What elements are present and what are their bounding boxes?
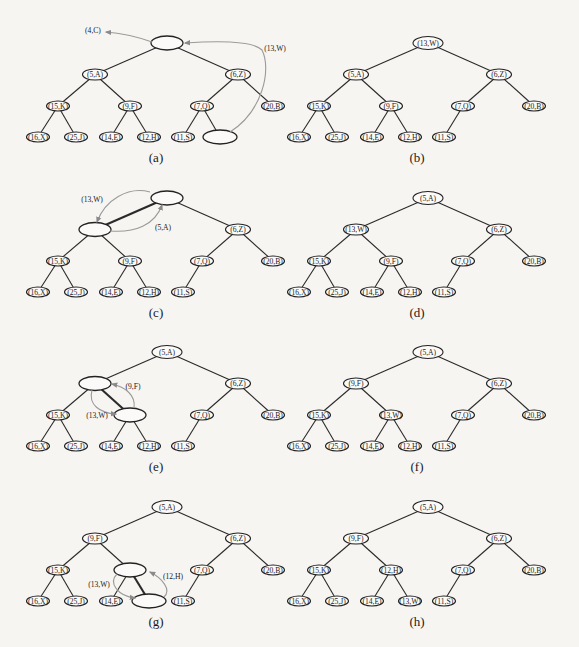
panel-caption: (h)	[409, 614, 424, 629]
node-label: (12,H)	[139, 442, 160, 451]
moving-entry-label: (12,H)	[163, 572, 184, 581]
heap-node: (13,W)	[399, 596, 422, 606]
node-label: (15,K)	[309, 566, 330, 575]
node-label: (9,F)	[349, 379, 364, 388]
node-label: (5,A)	[159, 348, 176, 357]
node-label: (11,S)	[435, 442, 454, 451]
node-label: (15,K)	[48, 566, 69, 575]
heap-node: (7,Q)	[191, 101, 214, 111]
heap-node: (6,Z)	[487, 69, 512, 80]
heap-node: (20,B)	[523, 256, 546, 266]
node-label: (6,Z)	[491, 534, 507, 543]
heap-node: (25,J)	[326, 596, 349, 606]
heap-node: (5,A)	[152, 346, 182, 359]
heap-node: (11,S)	[433, 596, 456, 606]
node-label: (12,H)	[400, 442, 421, 451]
node-label: (11,S)	[174, 288, 193, 297]
heap-node: (11,S)	[433, 441, 456, 451]
node-label: (12,H)	[139, 133, 160, 142]
heap-node: (6,Z)	[226, 69, 251, 80]
node-label: (25,J)	[67, 288, 85, 297]
heap-node: (25,J)	[326, 132, 349, 142]
node-label: (5,A)	[159, 503, 176, 512]
node-label: (14,E)	[362, 597, 382, 606]
node-label: (9,F)	[384, 102, 399, 111]
node-label: (14,E)	[101, 288, 121, 297]
panel-b: (13,W)(5,A)(6,Z)(15,K)(9,F)(7,Q)(20,B)(1…	[288, 37, 546, 165]
heap-node: (9,F)	[380, 101, 403, 111]
node-label: (25,J)	[328, 597, 346, 606]
heap-node: (16,X)	[27, 132, 50, 142]
empty-heap-node	[114, 408, 146, 422]
heap-node: (15,K)	[308, 410, 331, 420]
node-label: (25,J)	[328, 288, 346, 297]
node-label: (15,K)	[309, 257, 330, 266]
heap-node: (14,E)	[361, 132, 384, 142]
panel-caption: (d)	[409, 305, 424, 320]
node-label: (6,Z)	[491, 379, 507, 388]
heap-node: (25,J)	[65, 287, 88, 297]
heap-node: (25,J)	[65, 596, 88, 606]
node-label: (9,F)	[123, 257, 138, 266]
heap-node: (16,X)	[27, 596, 50, 606]
moving-entry-label: (13,W)	[81, 195, 103, 204]
heap-node: (13,W)	[380, 410, 403, 420]
heap-node: (15,K)	[47, 256, 70, 266]
heap-node: (16,X)	[288, 287, 311, 297]
heap-node: (13,W)	[344, 224, 369, 235]
heap-node: (14,E)	[100, 441, 123, 451]
node-ellipse	[151, 191, 183, 205]
heap-node: (12,H)	[138, 441, 161, 451]
heap-node: (12,H)	[380, 565, 403, 575]
node-label: (16,X)	[28, 597, 49, 606]
node-label: (6,Z)	[230, 70, 246, 79]
node-ellipse	[114, 408, 146, 422]
panel-d: (5,A)(13,W)(6,Z)(15,K)(9,F)(7,Q)(20,B)(1…	[288, 192, 546, 320]
heap-node: (11,S)	[433, 287, 456, 297]
heap-node: (7,Q)	[191, 410, 214, 420]
move-arrow	[106, 32, 152, 42]
node-label: (9,F)	[384, 257, 399, 266]
node-label: (6,Z)	[230, 379, 246, 388]
node-ellipse	[132, 594, 166, 608]
empty-heap-node	[79, 223, 111, 237]
node-label: (25,J)	[67, 133, 85, 142]
node-label: (11,S)	[435, 133, 454, 142]
node-ellipse	[79, 377, 111, 391]
node-label: (11,S)	[174, 133, 193, 142]
node-label: (20,B)	[524, 566, 544, 575]
node-label: (5,A)	[420, 194, 437, 203]
node-ellipse	[151, 36, 183, 50]
heap-node: (6,Z)	[226, 224, 251, 235]
heap-node: (9,F)	[344, 533, 369, 544]
node-label: (5,A)	[420, 348, 437, 357]
panel-a: (5,A)(6,Z)(15,K)(9,F)(7,Q)(20,B)(16,X)(2…	[27, 26, 287, 165]
heap-node: (14,E)	[361, 287, 384, 297]
node-label: (6,Z)	[491, 70, 507, 79]
node-label: (20,B)	[524, 411, 544, 420]
heap-node: (15,K)	[308, 565, 331, 575]
node-label: (9,F)	[123, 102, 138, 111]
panel-caption: (f)	[411, 459, 424, 474]
heap-node: (20,B)	[262, 410, 285, 420]
node-label: (13,W)	[380, 411, 402, 420]
node-label: (6,Z)	[230, 225, 246, 234]
heap-node: (11,S)	[172, 132, 195, 142]
moving-entry-label: (4,C)	[85, 26, 101, 35]
node-label: (13,W)	[399, 597, 421, 606]
heap-node: (16,X)	[27, 287, 50, 297]
empty-heap-node	[114, 563, 146, 577]
heap-node: (9,F)	[344, 378, 369, 389]
heap-node: (11,S)	[172, 287, 195, 297]
heap-node: (7,Q)	[191, 256, 214, 266]
node-label: (14,E)	[101, 597, 121, 606]
node-label: (16,X)	[289, 442, 310, 451]
node-label: (12,H)	[400, 288, 421, 297]
panel-caption: (g)	[148, 614, 163, 629]
node-label: (11,S)	[174, 597, 193, 606]
heap-node: (7,Q)	[452, 565, 475, 575]
moving-entry-label: (13,W)	[264, 44, 286, 53]
heap-node: (5,A)	[83, 69, 108, 80]
node-label: (16,X)	[28, 133, 49, 142]
heap-node: (16,X)	[27, 441, 50, 451]
